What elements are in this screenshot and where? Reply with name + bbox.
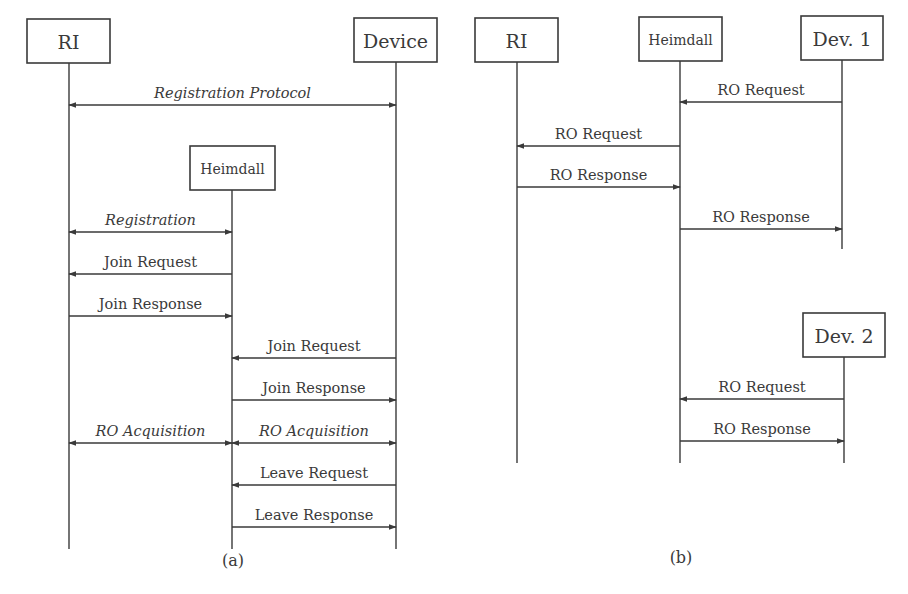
participant-ri: RI [27,19,110,63]
participant-heimdall: Heimdall [190,146,275,190]
participant-label: Device [363,30,428,52]
message-arrow: Leave Request [232,465,396,485]
message-label: RO Request [555,126,643,142]
sequence-diagrams: RIDeviceHeimdallRegistration ProtocolReg… [0,0,908,594]
participant-device: Device [354,18,437,62]
message-label: Join Response [260,380,365,396]
subfigure-caption: (b) [670,548,693,567]
message-label: Leave Request [260,465,368,481]
message-label: RO Response [713,421,811,437]
participant-ri: RI [475,18,558,62]
message-arrow: RO Request [680,379,844,399]
message-arrow: Registration Protocol [69,85,396,105]
participant-dev2: Dev. 2 [803,313,885,357]
message-label: Registration Protocol [153,85,311,101]
message-label: Leave Response [255,507,374,523]
diagram-b: RIHeimdallDev. 1Dev. 2RO RequestRO Reque… [475,16,885,567]
message-arrow: Join Response [69,296,232,316]
subfigure-caption: (a) [222,551,244,570]
message-arrow: RO Request [517,126,680,146]
message-arrow: Join Response [232,380,396,400]
participant-label: Heimdall [200,161,265,177]
message-arrow: RO Response [517,167,680,187]
message-label: RO Request [717,82,805,98]
message-arrow: Join Request [232,338,396,358]
participant-heimdall: Heimdall [639,17,722,61]
message-label: Registration [104,212,196,228]
participant-label: RI [58,31,80,53]
message-label: RO Acquisition [95,423,206,439]
message-label: Join Request [102,254,197,270]
participant-dev1: Dev. 1 [801,16,883,60]
message-arrow: RO Acquisition [232,423,396,443]
message-arrow: Leave Response [232,507,396,527]
message-arrow: RO Request [680,82,842,102]
message-label: Join Request [265,338,360,354]
message-label: RO Request [718,379,806,395]
message-label: Join Response [97,296,202,312]
message-arrow: Registration [69,212,232,232]
message-label: RO Acquisition [258,423,369,439]
message-arrow: RO Response [680,209,842,229]
participant-label: Dev. 2 [814,325,873,347]
participant-label: Heimdall [648,32,713,48]
message-arrow: RO Acquisition [69,423,232,443]
message-label: RO Response [712,209,810,225]
diagram-a: RIDeviceHeimdallRegistration ProtocolReg… [27,18,437,570]
message-arrow: Join Request [69,254,232,274]
message-arrow: RO Response [680,421,844,441]
participant-label: Dev. 1 [812,28,871,50]
participant-label: RI [506,30,528,52]
message-label: RO Response [550,167,648,183]
